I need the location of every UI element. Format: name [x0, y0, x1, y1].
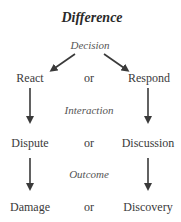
stage-label-decision: Decision	[70, 40, 109, 51]
node-dispute: Dispute	[11, 137, 48, 149]
node-damage: Damage	[10, 201, 50, 213]
diagram-title: Difference	[61, 11, 122, 25]
stage-label-outcome: Outcome	[69, 169, 109, 180]
connector-or-3: or	[84, 201, 94, 213]
connector-or-2: or	[84, 137, 94, 149]
arrow-decision-to-respond	[104, 54, 127, 70]
node-discussion: Discussion	[122, 137, 175, 149]
node-discovery: Discovery	[123, 201, 172, 213]
connector-or-1: or	[84, 72, 94, 84]
stage-label-interaction: Interaction	[65, 105, 114, 116]
arrow-decision-to-react	[52, 54, 75, 70]
node-respond: Respond	[128, 72, 170, 84]
node-react: React	[16, 72, 43, 84]
